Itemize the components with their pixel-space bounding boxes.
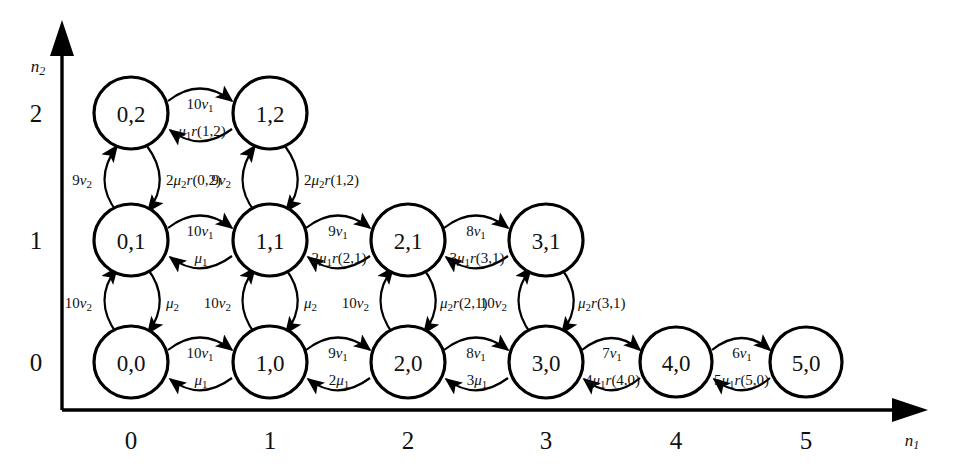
edge-01-00-down — [147, 268, 160, 333]
node-1-1[interactable]: 1,1 — [233, 204, 307, 276]
rate-label-21-11-backward: 2μ1r(2,1) — [311, 250, 366, 268]
node-label: 1,0 — [256, 351, 285, 376]
x-axis-arrowhead — [892, 398, 928, 422]
x-tick-label: 0 — [125, 427, 138, 454]
rate-label-30-31-up: 10v2 — [480, 295, 507, 313]
node-1-2[interactable]: 1,2 — [233, 77, 307, 149]
y-tick-label: 1 — [30, 227, 43, 254]
node-5-0[interactable]: 5,0 — [770, 327, 842, 397]
node-0-1[interactable]: 0,1 — [94, 204, 168, 276]
rate-label-21-31-forward: 8v1 — [466, 223, 486, 241]
edge-10-11-up — [243, 268, 256, 334]
node-label: 0,2 — [117, 102, 146, 127]
figure-canvas: n2 n1 2 1 0 0 1 2 3 4 5 — [0, 0, 966, 468]
node-2-1[interactable]: 2,1 — [371, 204, 445, 276]
node-label: 1,2 — [256, 102, 285, 127]
rate-labels-vertical-1-2: 9v2 2μ2r(0,2) 9v2 2μ2r(1,2) — [72, 172, 359, 190]
rate-label-01-02-up: 9v2 — [72, 172, 92, 190]
x-tick-label: 3 — [540, 427, 553, 454]
edge-00-01-up — [105, 268, 118, 334]
node-label: 1,1 — [256, 229, 285, 254]
rate-label-10-20-forward: 9v1 — [328, 345, 348, 363]
rate-label-20-10-backward: 2μ1 — [329, 372, 350, 390]
edge-11-12-up — [243, 146, 256, 212]
edge-21-20-down — [423, 268, 436, 333]
node-0-2[interactable]: 0,2 — [94, 77, 168, 149]
x-axis-name: n1 — [905, 431, 920, 453]
node-label: 3,0 — [532, 351, 561, 376]
rate-label-20-30-forward: 8v1 — [466, 345, 486, 363]
y-axis-name: n2 — [31, 57, 46, 79]
rate-label-02-12-forward: 10v1 — [186, 96, 213, 114]
edge-20-21-up — [381, 268, 394, 334]
rate-label-11-10-down: μ2 — [303, 295, 317, 313]
node-3-0[interactable]: 3,0 — [509, 326, 583, 398]
rate-label-00-10-forward: 10v1 — [186, 345, 213, 363]
node-4-0[interactable]: 4,0 — [640, 327, 712, 397]
x-tick-label: 2 — [402, 427, 415, 454]
y-axis-name-sub: 2 — [39, 64, 45, 78]
svg-text:n1: n1 — [905, 431, 920, 453]
node-label: 0,0 — [117, 351, 146, 376]
node-0-0[interactable]: 0,0 — [94, 326, 168, 398]
rate-label-31-30-down: μ2r(3,1) — [577, 295, 626, 313]
y-axis-arrowhead — [50, 20, 74, 56]
y-tick-label: 0 — [30, 349, 43, 376]
x-tick-label: 5 — [800, 427, 813, 454]
rate-label-11-01-backward: μ1 — [193, 250, 207, 268]
rate-label-20-21-up: 10v2 — [342, 295, 369, 313]
x-tick-label: 1 — [264, 427, 277, 454]
edge-30-31-up — [519, 268, 532, 334]
x-tick-label: 4 — [670, 427, 683, 454]
node-label: 5,0 — [792, 351, 821, 376]
rate-label-31-21-backward: 3μ1r(3,1) — [449, 250, 504, 268]
rate-label-50-40-backward: 5μ1r(5,0) — [714, 372, 769, 390]
x-axis-ticks: 0 1 2 3 4 5 — [125, 427, 813, 454]
edge-02-01-down — [147, 146, 160, 211]
node-label: 2,1 — [394, 229, 423, 254]
node-2-0[interactable]: 2,0 — [371, 326, 445, 398]
rate-labels-vertical-0-1: 10v2 μ2 10v2 μ2 10v2 μ2r(2,1) 10v2 μ2r(3… — [65, 295, 626, 313]
rate-label-11-21-forward: 9v1 — [328, 223, 348, 241]
rate-label-12-11-down: 2μ2r(1,2) — [304, 172, 359, 190]
y-axis-name-text: n — [31, 57, 40, 76]
x-axis-name-text: n — [905, 431, 914, 450]
node-label: 4,0 — [662, 351, 691, 376]
rate-labels-row-2: 10v1 μ1r(1,2) — [177, 96, 226, 141]
svg-text:n2: n2 — [31, 57, 46, 79]
node-label: 3,1 — [532, 229, 561, 254]
rate-label-10-11-up: 10v2 — [204, 295, 231, 313]
node-3-1[interactable]: 3,1 — [509, 204, 583, 276]
rate-label-01-00-down: μ2 — [165, 295, 179, 313]
y-tick-label: 2 — [30, 100, 43, 127]
rate-label-40-30-backward: 4μ1r(4,0) — [585, 372, 640, 390]
rate-label-40-50-forward: 6v1 — [732, 345, 752, 363]
y-axis-ticks: 2 1 0 — [30, 100, 43, 376]
rate-label-30-40-forward: 7v1 — [602, 345, 622, 363]
x-axis-name-sub: 1 — [913, 438, 919, 452]
node-1-0[interactable]: 1,0 — [233, 326, 307, 398]
node-label: 0,1 — [117, 229, 146, 254]
rate-label-00-01-up: 10v2 — [65, 295, 92, 313]
rate-label-11-12-up: 9v2 — [211, 172, 231, 190]
edge-12-11-down — [285, 146, 298, 211]
edge-01-02-up — [105, 146, 118, 212]
state-transition-diagram: n2 n1 2 1 0 0 1 2 3 4 5 — [0, 0, 966, 468]
rate-label-01-11-forward: 10v1 — [186, 223, 213, 241]
rate-label-10-00-backward: μ1 — [193, 372, 207, 390]
edge-31-30-down — [561, 268, 574, 333]
rate-label-30-20-backward: 3μ1 — [467, 372, 488, 390]
node-label: 2,0 — [394, 351, 423, 376]
edge-11-10-down — [285, 268, 298, 333]
rate-label-12-02-backward: μ1r(1,2) — [177, 123, 226, 141]
